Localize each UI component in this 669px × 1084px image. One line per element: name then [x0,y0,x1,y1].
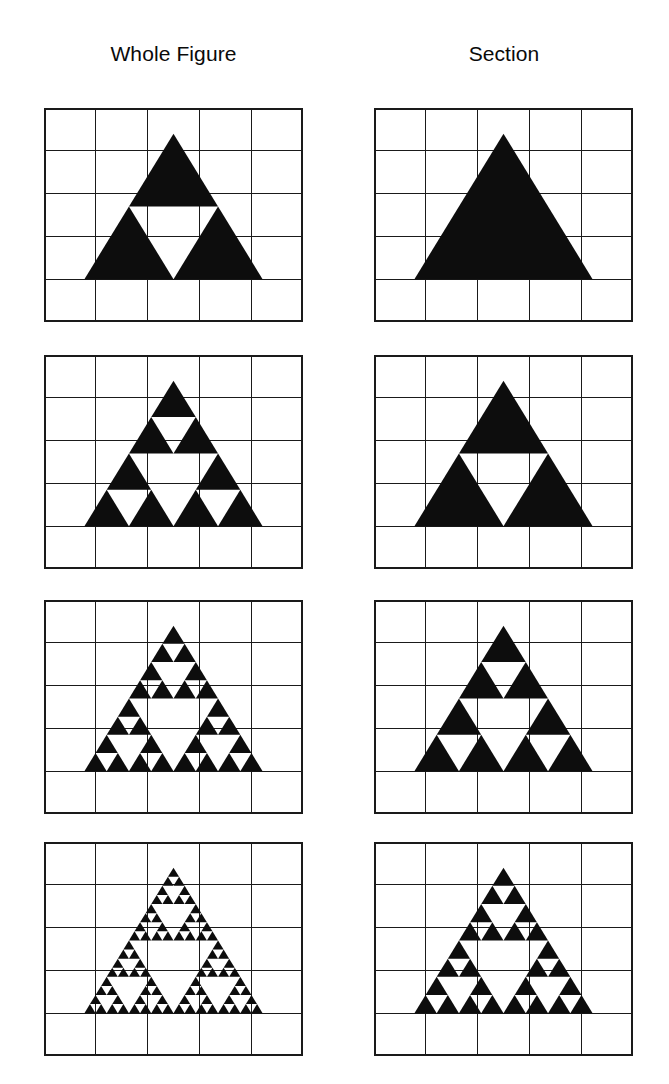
triangle-unit [218,968,229,977]
triangle-unit [207,1004,218,1013]
triangle-unit [151,913,162,922]
triangle-unit [504,453,593,526]
triangle-unit [151,986,162,995]
triangle-unit [437,995,459,1013]
triangle-unit [129,134,218,207]
triangle-unit [157,922,168,931]
triangle-unit [224,995,235,1004]
sierpinski-triangle-depth-3 [414,868,592,1014]
sierpinski-triangle-depth-1 [84,134,262,280]
triangle-unit [179,995,190,1004]
triangle-unit [174,417,219,453]
triangle-unit [129,931,140,940]
panel-r3-whole [44,600,303,814]
triangle-unit [174,931,185,940]
triangle-unit [140,662,162,680]
triangle-unit [123,940,134,949]
triangle-unit [140,986,151,995]
triangle-unit [470,977,492,995]
triangle-unit [218,490,263,526]
panel-r3-section [374,600,633,814]
triangle-unit [504,995,526,1013]
triangle-unit [162,626,184,644]
triangle-unit [140,931,151,940]
triangle-unit [459,381,548,454]
triangle-unit [207,968,218,977]
triangle-unit [246,995,257,1004]
triangle-unit [515,977,537,995]
triangle-unit [185,931,196,940]
triangle-unit [481,626,526,662]
triangle-unit [207,950,218,959]
triangle-unit [174,877,185,886]
triangle-unit [174,206,263,279]
triangle-unit [548,735,593,771]
triangle-unit [218,950,229,959]
triangle-unit [448,940,470,958]
triangle-unit [140,735,162,753]
triangle-unit [174,490,219,526]
triangle-unit [207,931,218,940]
sierpinski-triangle-depth-1 [414,381,592,527]
triangle-unit [570,995,592,1013]
triangle-unit [196,913,207,922]
triangle-unit [504,886,526,904]
triangle-unit [240,1004,251,1013]
triangle-unit [140,968,151,977]
triangle-unit [151,753,173,771]
triangle-unit [84,206,173,279]
triangle-unit [559,977,581,995]
triangle-unit [174,680,196,698]
panel-r2-whole [44,355,303,569]
triangle-unit [162,1004,173,1013]
panel-r4-whole [44,842,303,1056]
column-header-row: Whole Figure Section [0,0,669,96]
triangle-unit [218,717,240,735]
triangle-unit [414,735,459,771]
triangle-unit [90,995,101,1004]
triangle-unit [185,735,207,753]
triangle-unit [459,735,504,771]
panel-r1-section [374,108,633,322]
triangle-unit [481,995,503,1013]
triangle-unit [135,922,146,931]
triangle-unit [526,698,571,734]
sierpinski-triangle-depth-2 [84,381,262,527]
triangle-unit [185,913,196,922]
triangle-unit [185,1004,196,1013]
triangle-unit [201,959,212,968]
triangle-unit [185,986,196,995]
triangle-unit [481,922,503,940]
triangle-unit [162,877,173,886]
triangle-unit [84,753,106,771]
triangle-unit [235,977,246,986]
triangle-unit [174,644,196,662]
triangle-unit [504,662,549,698]
triangle-unit [129,968,140,977]
triangle-unit [537,940,559,958]
triangle-unit [129,490,174,526]
triangle-unit [162,895,173,904]
triangle-unit [140,913,151,922]
triangle-unit [107,986,118,995]
triangle-unit [84,1004,95,1013]
triangle-unit [107,753,129,771]
triangle-unit [548,995,570,1013]
triangle-unit [224,959,235,968]
triangle-unit [174,895,185,904]
triangle-unit [240,753,262,771]
triangle-unit [218,753,240,771]
triangle-unit [212,940,223,949]
triangle-unit [492,868,514,886]
sierpinski-triangle-depth-0 [414,134,592,280]
panel-r4-section [374,842,633,1056]
triangle-unit [151,895,162,904]
triangle-unit [504,735,549,771]
triangle-unit [229,735,251,753]
triangle-unit [201,995,212,1004]
triangle-unit [118,698,140,716]
column-header-section: Section [374,42,634,66]
triangle-unit [151,644,173,662]
triangle-unit [129,417,174,453]
triangle-unit [168,868,179,877]
